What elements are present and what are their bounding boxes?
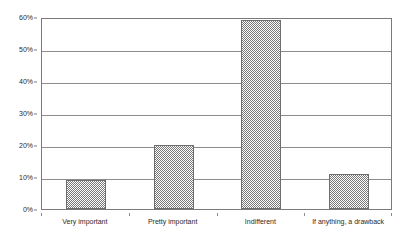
x-tick-label: Pretty important (148, 217, 197, 226)
bar (66, 180, 106, 209)
x-tick-mark (217, 213, 218, 216)
y-tick-mark (34, 210, 37, 211)
bar (329, 174, 369, 209)
bar (154, 145, 194, 209)
bar (241, 20, 281, 209)
y-axis: 0%10%20%30%40%50%60% (0, 18, 37, 210)
plot-area (41, 18, 392, 210)
x-tick-mark (41, 213, 42, 216)
y-tick-mark (34, 178, 37, 179)
x-tick-mark (391, 213, 392, 216)
bar-chart-figure: 0%10%20%30%40%50%60% Very importantPrett… (0, 0, 406, 235)
gridline (42, 147, 391, 148)
x-tick-mark (129, 213, 130, 216)
y-tick-mark (34, 146, 37, 147)
y-tick-label: 10% (19, 174, 33, 182)
y-tick-mark (34, 50, 37, 51)
y-tick-mark (34, 82, 37, 83)
x-axis: Very importantPretty importantIndifferen… (41, 213, 392, 233)
gridline (42, 115, 391, 116)
y-tick-mark (34, 18, 37, 19)
y-tick-label: 50% (19, 46, 33, 54)
x-tick-label: If anything, a drawback (312, 217, 384, 226)
x-tick-label: Very important (62, 217, 107, 226)
y-tick-mark (34, 114, 37, 115)
y-tick-label: 30% (19, 110, 33, 118)
y-tick-label: 20% (19, 142, 33, 150)
y-tick-label: 0% (23, 206, 33, 214)
y-tick-label: 40% (19, 78, 33, 86)
gridline (42, 83, 391, 84)
gridline (42, 51, 391, 52)
x-tick-mark (304, 213, 305, 216)
x-tick-label: Indifferent (245, 217, 276, 226)
y-tick-label: 60% (19, 14, 33, 22)
